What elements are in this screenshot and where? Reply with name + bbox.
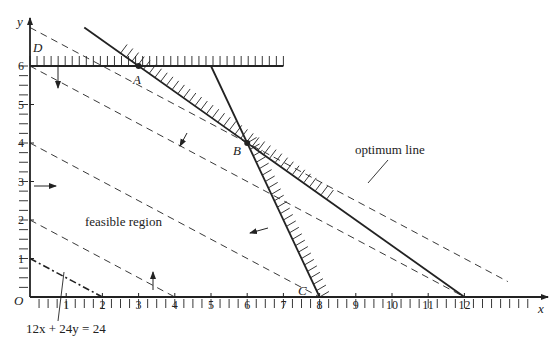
direction-arrow bbox=[180, 133, 187, 146]
hatch-mark bbox=[286, 221, 295, 227]
constraint-hatching bbox=[30, 44, 333, 297]
hatch-mark bbox=[271, 189, 280, 195]
x-tick-label: 4 bbox=[172, 298, 178, 312]
hatch-mark bbox=[308, 266, 317, 272]
hatch-mark bbox=[195, 97, 202, 106]
point-a-label: A bbox=[132, 72, 141, 87]
x-tick-label: 1 bbox=[63, 298, 69, 312]
constraint-lines bbox=[30, 28, 464, 298]
x-tick-label: 10 bbox=[386, 298, 398, 312]
linear-programming-graph: 123456789101112123456 x y O D A B C feas… bbox=[0, 0, 557, 355]
hatch-mark bbox=[172, 81, 179, 90]
hatch-mark bbox=[302, 253, 311, 259]
hatch-mark bbox=[224, 117, 231, 126]
hatch-mark bbox=[265, 176, 274, 182]
objective-line bbox=[30, 259, 102, 298]
direction-arrows bbox=[34, 66, 268, 290]
hatch-mark bbox=[289, 227, 298, 233]
point-d-label: D bbox=[32, 40, 43, 55]
hatch-mark bbox=[258, 142, 265, 151]
hatch-mark bbox=[178, 85, 185, 94]
y-tick-label: 6 bbox=[18, 59, 24, 73]
hatch-mark bbox=[314, 279, 323, 285]
constraint-line bbox=[211, 66, 320, 297]
hatch-mark bbox=[281, 158, 288, 167]
hatch-mark bbox=[218, 113, 225, 122]
hatch-mark bbox=[126, 49, 133, 58]
hatch-mark bbox=[212, 109, 219, 118]
x-axis-label: x bbox=[537, 301, 544, 316]
point-b bbox=[244, 140, 250, 146]
x-tick-label: 9 bbox=[353, 298, 359, 312]
y-tick-label: 3 bbox=[18, 175, 24, 189]
hatch-mark bbox=[121, 44, 128, 53]
hatch-mark bbox=[268, 182, 277, 188]
hatch-mark bbox=[270, 150, 277, 159]
objective-line bbox=[30, 66, 464, 297]
hatch-mark bbox=[161, 73, 168, 82]
hatch-mark bbox=[189, 93, 196, 102]
hatch-mark bbox=[292, 234, 301, 240]
objective-equation-label: 12x + 24y = 24 bbox=[26, 321, 106, 336]
hatch-mark bbox=[315, 182, 322, 191]
hatch-mark bbox=[295, 240, 304, 246]
hatch-mark bbox=[143, 61, 150, 70]
optimum-line-label: optimum line bbox=[355, 142, 425, 157]
hatch-mark bbox=[280, 208, 289, 214]
point-a bbox=[136, 63, 142, 69]
point-c-label: C bbox=[298, 283, 307, 298]
y-tick-label: 4 bbox=[18, 136, 24, 150]
hatch-mark bbox=[283, 215, 292, 221]
x-tick-label: 7 bbox=[280, 298, 286, 312]
hatch-mark bbox=[259, 163, 268, 169]
hatch-mark bbox=[206, 105, 213, 114]
objective-line bbox=[30, 143, 320, 297]
optimum-leader bbox=[368, 160, 388, 183]
x-tick-label: 6 bbox=[244, 298, 250, 312]
constraint-line bbox=[84, 28, 464, 298]
hatch-mark bbox=[166, 77, 173, 86]
feasible-region-label: feasible region bbox=[85, 214, 162, 229]
hatch-mark bbox=[317, 285, 326, 291]
hatch-mark bbox=[327, 190, 334, 199]
hatch-mark bbox=[229, 121, 236, 130]
direction-arrow bbox=[250, 228, 268, 233]
hatch-mark bbox=[201, 101, 208, 110]
x-tick-label: 3 bbox=[136, 298, 142, 312]
hatch-mark bbox=[310, 178, 317, 187]
hatch-mark bbox=[256, 157, 265, 163]
x-tick-label: 11 bbox=[422, 298, 434, 312]
x-tick-label: 5 bbox=[208, 298, 214, 312]
point-b-label: B bbox=[233, 143, 241, 158]
y-tick-label: 5 bbox=[18, 98, 24, 112]
x-tick-label: 2 bbox=[99, 298, 105, 312]
x-tick-label: 12 bbox=[458, 298, 470, 312]
x-tick-label: 8 bbox=[317, 298, 323, 312]
hatch-mark bbox=[311, 272, 320, 278]
hatch-mark bbox=[155, 69, 162, 78]
objective-lines bbox=[30, 28, 508, 298]
y-tick-label: 1 bbox=[18, 252, 24, 266]
hatch-mark bbox=[277, 202, 286, 208]
y-axis-label: y bbox=[15, 14, 23, 29]
hatch-mark bbox=[184, 89, 191, 98]
hatch-mark bbox=[321, 186, 328, 195]
hatch-mark bbox=[264, 146, 271, 155]
hatch-mark bbox=[298, 247, 307, 253]
hatch-mark bbox=[305, 259, 314, 265]
hatch-mark bbox=[262, 170, 271, 176]
origin-label: O bbox=[14, 293, 24, 308]
y-tick-label: 2 bbox=[18, 213, 24, 227]
